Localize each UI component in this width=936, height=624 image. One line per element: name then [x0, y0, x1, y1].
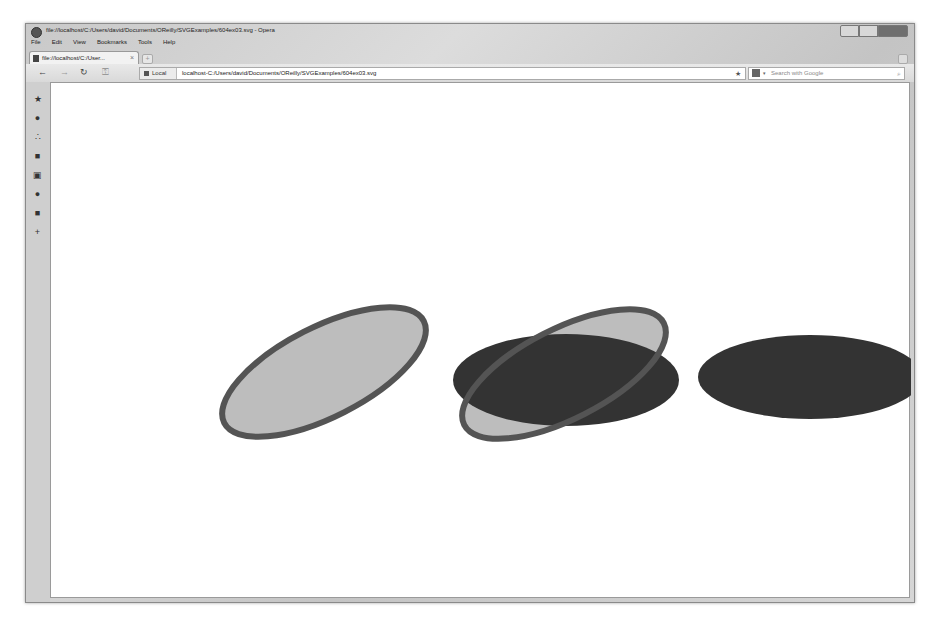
back-button[interactable]: ← — [38, 67, 47, 78]
title-bar: file://localhost/C:/Users/david/Document… — [26, 24, 914, 40]
menu-tools[interactable]: Tools — [137, 39, 153, 50]
search-engine-dropdown-icon[interactable]: ▾ — [763, 68, 766, 79]
notes-icon[interactable]: ■ — [33, 152, 42, 161]
navigation-bar: ← → ↻ ⚿ Local localhost-C:/Users/david/D… — [26, 64, 914, 82]
panel-sidebar: ★ ● ∴ ■ ▣ ● ■ + — [26, 82, 50, 602]
new-tab-button[interactable]: + — [142, 54, 153, 64]
window-title: file://localhost/C:/Users/david/Document… — [46, 27, 275, 33]
dark-ellipse-middle — [453, 334, 679, 426]
forward-button[interactable]: → — [60, 67, 69, 78]
address-input[interactable]: localhost-C:/Users/david/Documents/OReil… — [182, 68, 376, 79]
tab-svg-file[interactable]: file://localhost/C:/User... × — [29, 51, 139, 65]
tab-label: file://localhost/C:/User... — [42, 55, 105, 61]
menu-view[interactable]: View — [72, 39, 87, 50]
tab-bar: file://localhost/C:/User... × + — [26, 51, 914, 64]
tilted-outlined-ellipse-left — [204, 281, 444, 463]
document-icon — [33, 55, 39, 62]
tab-close-icon[interactable]: × — [130, 54, 134, 61]
menu-bar: File Edit View Bookmarks Tools Help — [30, 39, 176, 50]
panels-icon[interactable]: ■ — [33, 209, 42, 218]
tab-menu-button[interactable] — [898, 54, 908, 64]
local-badge-label: Local — [152, 70, 166, 76]
svg-document — [51, 83, 911, 599]
history-icon[interactable]: ● — [33, 190, 42, 199]
wand-key-button[interactable]: ⚿ — [102, 67, 109, 78]
search-input[interactable]: Search with Google — [771, 68, 823, 79]
search-box[interactable]: ▾ Search with Google ⌕ — [748, 67, 905, 80]
minimize-button[interactable] — [840, 25, 859, 37]
opera-logo-icon — [31, 27, 42, 38]
transfers-icon[interactable]: ▣ — [33, 171, 42, 180]
menu-help[interactable]: Help — [162, 39, 176, 50]
menu-file[interactable]: File — [30, 39, 42, 50]
browser-window: file://localhost/C:/Users/david/Document… — [25, 23, 915, 603]
search-icon[interactable]: ⌕ — [897, 68, 901, 79]
menu-edit[interactable]: Edit — [51, 39, 63, 50]
speed-dial-icon[interactable]: ● — [33, 114, 42, 123]
google-icon[interactable] — [752, 69, 760, 77]
reload-button[interactable]: ↻ — [80, 67, 88, 78]
page-content — [50, 82, 910, 598]
window-controls — [840, 25, 908, 37]
local-badge[interactable]: Local — [140, 68, 177, 79]
add-panel-icon[interactable]: + — [33, 228, 42, 237]
maximize-button[interactable] — [859, 25, 878, 37]
address-bar[interactable]: Local localhost-C:/Users/david/Documents… — [139, 67, 746, 80]
share-icon[interactable]: ∴ — [33, 133, 42, 142]
bookmarks-star-icon[interactable]: ★ — [33, 95, 42, 104]
bookmark-star-icon[interactable]: ★ — [735, 68, 741, 79]
local-file-icon — [144, 71, 149, 76]
dark-ellipse-right — [698, 335, 911, 419]
close-button[interactable] — [878, 25, 908, 37]
menu-bookmarks[interactable]: Bookmarks — [96, 39, 128, 50]
